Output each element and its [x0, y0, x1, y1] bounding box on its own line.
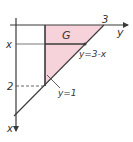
y-axis-label: y	[116, 26, 124, 39]
integration-region-diagram: 3 y G x y=3-x 2 y=1 x	[0, 0, 133, 142]
tick-label-3: 3	[102, 14, 108, 25]
region-label-g: G	[62, 29, 71, 42]
tick-label-2: 2	[7, 81, 13, 92]
x-axis-label: x	[6, 123, 13, 134]
diagonal-label: y=3-x	[78, 49, 107, 59]
leader-line-y-1	[47, 75, 60, 88]
vertical-line-label: y=1	[57, 88, 77, 98]
tick-label-x: x	[5, 39, 12, 50]
